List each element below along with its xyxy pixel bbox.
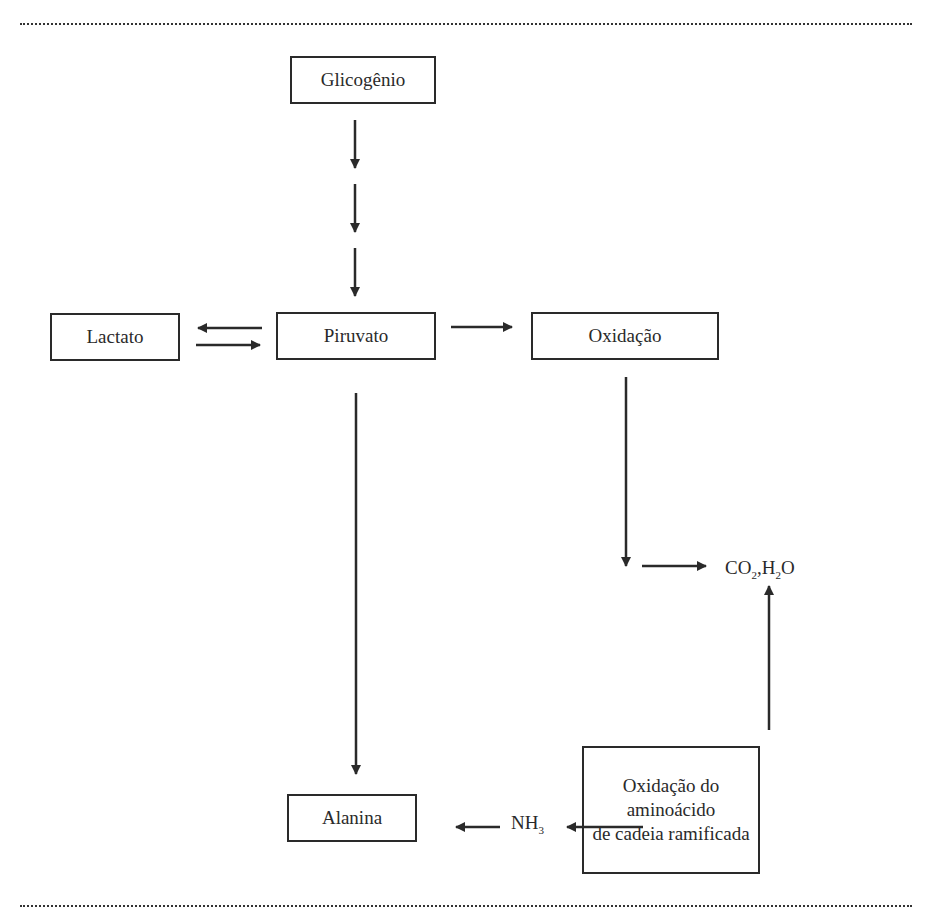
- arrows-layer: [0, 0, 927, 921]
